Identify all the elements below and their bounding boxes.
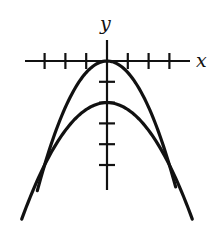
y-axis-label: y <box>99 12 111 34</box>
graph: y x <box>0 0 218 226</box>
x-axis-label: x <box>196 49 207 71</box>
